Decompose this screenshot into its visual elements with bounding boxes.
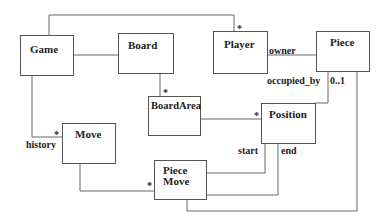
line-game-move xyxy=(32,75,62,137)
mult-piece-position: 0..1 xyxy=(330,76,345,86)
class-name: BoardArea xyxy=(151,100,201,111)
class-name: Move xyxy=(75,129,101,140)
role-owner: owner xyxy=(269,46,296,56)
class-move[interactable]: Move xyxy=(62,123,116,164)
role-occupied-by: occupied_by xyxy=(267,76,320,86)
role-start: start xyxy=(238,146,258,156)
class-name-line2: Move xyxy=(163,176,189,187)
class-board[interactable]: Board xyxy=(118,33,174,74)
class-piecemove[interactable]: Piece Move xyxy=(154,160,207,200)
class-name: Player xyxy=(224,39,255,50)
line-game-player xyxy=(49,15,234,35)
mult-board-boardarea: * xyxy=(163,88,168,98)
class-game[interactable]: Game xyxy=(20,35,74,76)
class-name: Game xyxy=(30,44,58,55)
class-name: Board xyxy=(128,40,157,51)
class-piece[interactable]: Piece xyxy=(316,31,370,72)
class-player[interactable]: Player xyxy=(213,31,268,74)
role-history: history xyxy=(26,140,56,150)
role-end: end xyxy=(281,146,297,156)
mult-move-piecemove: * xyxy=(147,181,152,191)
line-move-piecemove xyxy=(80,163,154,191)
class-name: Position xyxy=(269,109,307,120)
class-name: Piece xyxy=(330,37,354,48)
mult-boardarea-position: * xyxy=(254,111,259,121)
class-boardarea[interactable]: BoardArea xyxy=(148,96,201,136)
mult-game-player: * xyxy=(237,24,242,34)
class-position[interactable]: Position xyxy=(261,103,316,144)
